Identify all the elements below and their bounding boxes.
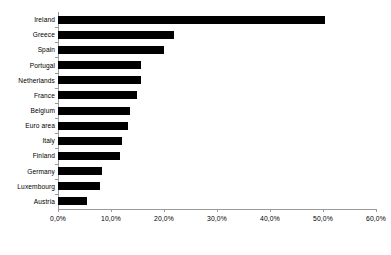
value-tick-label: 20,0% xyxy=(154,215,174,223)
category-tick xyxy=(55,164,58,165)
value-tick xyxy=(323,209,324,212)
bar-row xyxy=(58,167,376,175)
bar-chart: IrelandGreeceSpainPortugalNetherlandsFra… xyxy=(0,0,391,255)
bar xyxy=(58,46,164,54)
bar-row xyxy=(58,197,376,205)
category-label: Portugal xyxy=(1,62,55,69)
bar xyxy=(58,91,137,99)
category-label: Euro area xyxy=(1,122,55,129)
value-tick-label: 40,0% xyxy=(260,215,280,223)
bar xyxy=(58,31,174,39)
category-label: Italy xyxy=(1,137,55,144)
bar xyxy=(58,167,102,175)
category-tick xyxy=(55,118,58,119)
category-label: Germany xyxy=(1,168,55,175)
category-tick xyxy=(55,73,58,74)
value-tick-label: 0,0% xyxy=(50,215,66,223)
value-tick-label: 10,0% xyxy=(101,215,121,223)
value-tick-label: 60,0% xyxy=(366,215,386,223)
category-label: Netherlands xyxy=(1,77,55,84)
category-label: Spain xyxy=(1,46,55,53)
value-tick xyxy=(217,209,218,212)
value-tick xyxy=(111,209,112,212)
category-label: Austria xyxy=(1,198,55,205)
bar-row xyxy=(58,76,376,84)
value-tick xyxy=(376,209,377,212)
category-tick xyxy=(55,179,58,180)
bar xyxy=(58,182,100,190)
category-tick xyxy=(55,88,58,89)
bar-row xyxy=(58,46,376,54)
category-label: France xyxy=(1,92,55,99)
category-tick xyxy=(55,133,58,134)
bar xyxy=(58,152,120,160)
plot-area xyxy=(58,12,376,209)
bar xyxy=(58,61,141,69)
category-label: Ireland xyxy=(1,16,55,23)
category-tick xyxy=(55,27,58,28)
bar xyxy=(58,122,128,130)
category-label: Belgium xyxy=(1,107,55,114)
value-tick xyxy=(58,209,59,212)
category-tick xyxy=(55,42,58,43)
bar-row xyxy=(58,122,376,130)
category-label: Finland xyxy=(1,152,55,159)
bar xyxy=(58,76,141,84)
value-tick-label: 30,0% xyxy=(207,215,227,223)
bar-row xyxy=(58,91,376,99)
bar xyxy=(58,16,325,24)
bar-row xyxy=(58,182,376,190)
category-tick xyxy=(55,57,58,58)
category-label: Luxembourg xyxy=(1,183,55,190)
bar xyxy=(58,197,87,205)
bar xyxy=(58,137,122,145)
category-tick xyxy=(55,103,58,104)
bar-row xyxy=(58,61,376,69)
bar-row xyxy=(58,107,376,115)
bar-row xyxy=(58,137,376,145)
bar-row xyxy=(58,31,376,39)
category-tick xyxy=(55,194,58,195)
value-tick xyxy=(164,209,165,212)
category-axis-labels: IrelandGreeceSpainPortugalNetherlandsFra… xyxy=(0,12,55,209)
value-tick xyxy=(270,209,271,212)
bar-row xyxy=(58,152,376,160)
category-label: Greece xyxy=(1,31,55,38)
bar-row xyxy=(58,16,376,24)
bar xyxy=(58,107,130,115)
category-tick xyxy=(55,148,58,149)
value-tick-label: 50,0% xyxy=(313,215,333,223)
value-axis-ticks: 0,0%10,0%20,0%30,0%40,0%50,0%60,0% xyxy=(58,209,376,239)
